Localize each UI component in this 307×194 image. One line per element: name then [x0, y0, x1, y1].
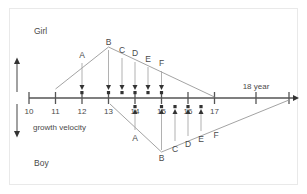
girl-marker-A: A — [79, 50, 85, 94]
girl-marker-D-dot — [133, 91, 136, 94]
growth-velocity-diagram: 10 11 12 13 14 15 16 17 18 year — [0, 0, 307, 194]
boy-marker-E: E — [198, 105, 204, 144]
boy-marker-C-arrowhead-icon — [173, 109, 178, 114]
girl-marker-D: D — [132, 48, 138, 94]
boy-marker-C-label: C — [172, 144, 178, 154]
boy-marker-C-dot — [173, 105, 176, 108]
girl-marker-A-arrowhead-icon — [80, 85, 85, 90]
boy-marker-D-label: D — [185, 139, 191, 149]
girl-marker-C: C — [119, 45, 125, 94]
girl-section-label: Girl — [34, 26, 47, 36]
girl-marker-B-label: B — [106, 37, 112, 47]
girl-marker-A-label: A — [79, 50, 85, 60]
girl-marker-E-dot — [146, 91, 149, 94]
boy-marker-F-label: F — [213, 130, 218, 140]
boy-marker-E-arrowhead-icon — [199, 109, 204, 114]
down-arrow-icon — [14, 131, 20, 138]
boy-marker-E-label: E — [198, 134, 204, 144]
girl-marker-F: F — [159, 58, 164, 94]
girl-marker-E-arrowhead-icon — [146, 85, 151, 90]
axis-arrowhead-icon — [293, 95, 299, 101]
tick-label-12: 12 — [78, 107, 87, 116]
boy-marker-B-label: B — [159, 153, 165, 163]
girl-marker-C-dot — [120, 91, 123, 94]
girl-marker-F-arrowhead-icon — [159, 85, 164, 90]
velocity-axis-indicator — [14, 58, 20, 138]
girl-marker-E: E — [145, 54, 151, 94]
tick-label-13: 13 — [104, 107, 113, 116]
girl-marker-C-label: C — [119, 45, 125, 55]
girl-marker-B-dot — [107, 91, 110, 94]
girl-markers: A B C D — [79, 37, 164, 94]
girl-marker-D-arrowhead-icon — [133, 85, 138, 90]
girl-marker-B-arrowhead-icon — [106, 85, 111, 90]
boy-marker-A-dot — [133, 105, 136, 108]
girl-marker-C-arrowhead-icon — [120, 85, 125, 90]
boy-marker-D-dot — [186, 105, 189, 108]
boy-marker-F: F — [213, 130, 218, 140]
tick-label-11: 11 — [51, 107, 60, 116]
tick-label-10: 10 — [25, 107, 34, 116]
tick-label-17: 17 — [210, 107, 219, 116]
end-year-label: 18 year — [243, 82, 270, 91]
girl-marker-F-label: F — [159, 58, 164, 68]
axis-group — [29, 92, 299, 104]
boy-section-label: Boy — [34, 158, 49, 168]
girl-marker-A-dot — [80, 91, 83, 94]
girl-marker-D-label: D — [132, 48, 138, 58]
girl-marker-B: B — [106, 37, 112, 94]
boy-marker-A-label: A — [132, 133, 138, 143]
boy-marker-E-dot — [199, 105, 202, 108]
boy-marker-C: C — [172, 105, 178, 154]
boy-marker-B: B — [159, 105, 165, 163]
boy-marker-B-dot — [160, 105, 163, 108]
up-arrow-icon — [14, 58, 20, 65]
diagram-root: 10 11 12 13 14 15 16 17 18 year — [0, 0, 307, 194]
girl-marker-E-label: E — [145, 54, 151, 64]
girl-marker-F-dot — [160, 91, 163, 94]
growth-velocity-caption: growth velocity — [33, 123, 86, 132]
